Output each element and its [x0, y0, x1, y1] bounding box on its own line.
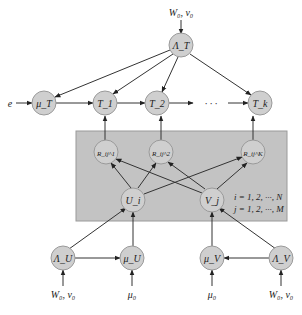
node-label: μ_V: [203, 253, 222, 264]
edge-lambda-t-tk: [190, 54, 251, 95]
node-label: V_j: [205, 195, 219, 206]
node-mu-t: μ_T: [32, 91, 56, 115]
node-label: μ_U: [122, 253, 141, 264]
prior-label-lambda-u: W₀, ν₀: [51, 289, 76, 300]
node-lambda-u: Λ_U: [51, 246, 75, 270]
ellipsis: · · ·: [205, 98, 218, 109]
plate-index-j: j = 1, 2, ···, M: [233, 204, 284, 214]
node-label: R_ij^2: [151, 150, 171, 158]
node-mu-v: μ_V: [200, 246, 224, 270]
prior-label-lambda-t: W₀, ν₀: [169, 7, 194, 18]
node-v: V_j: [200, 188, 224, 212]
node-r1: R_ij^1: [94, 140, 118, 164]
node-label: T_1: [97, 98, 113, 109]
edge-lambda-t-mu-t: [55, 50, 170, 97]
node-label: Λ_U: [53, 253, 73, 264]
node-label: R_ij^K: [242, 150, 263, 158]
node-tk: T_k: [248, 91, 272, 115]
prior-label-mu-u: μ₀: [127, 289, 137, 300]
prior-label-lambda-v: W₀, ν₀: [269, 289, 294, 300]
node-t2: T_2: [145, 91, 169, 115]
node-label: μ_T: [35, 98, 53, 109]
node-u: U_i: [121, 188, 145, 212]
node-label: R_ij^1: [96, 150, 115, 158]
node-r2: R_ij^2: [149, 140, 173, 164]
edge-lambda-t-t2: [162, 57, 178, 92]
prior-label-mu-v: μ₀: [207, 289, 217, 300]
node-label: T_k: [253, 98, 269, 109]
node-t1: T_1: [93, 91, 117, 115]
node-label: Λ_V: [271, 253, 291, 264]
node-label: T_2: [149, 98, 165, 109]
node-label: U_i: [126, 195, 141, 206]
node-rk: R_ij^K: [241, 140, 265, 164]
graphical-model: Λ_T μ_T T_1 T_2 T_k R_ij^1 R_ij^2 R_ij^K…: [0, 0, 302, 315]
node-lambda-t: Λ_T: [169, 33, 193, 57]
input-label-e: e: [8, 98, 13, 109]
plate-index-i: i = 1, 2, ···, N: [234, 192, 283, 202]
node-lambda-v: Λ_V: [269, 246, 293, 270]
node-mu-u: μ_U: [120, 246, 144, 270]
node-label: Λ_T: [172, 40, 191, 51]
